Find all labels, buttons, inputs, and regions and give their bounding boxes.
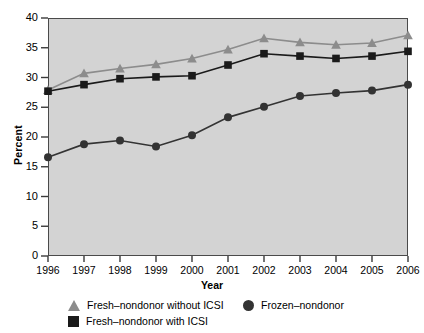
- legend-triangle-icon: [68, 300, 80, 311]
- data-point-marker: [116, 137, 124, 145]
- data-point-marker: [260, 103, 268, 111]
- data-point-marker: [332, 89, 340, 97]
- data-point-marker: [332, 55, 340, 63]
- legend-label: Fresh–nondonor without ICSI: [87, 299, 224, 311]
- data-point-marker: [152, 143, 160, 151]
- data-series-group: [43, 30, 413, 161]
- data-point-marker: [44, 87, 52, 95]
- data-point-marker: [403, 30, 413, 39]
- data-point-marker: [44, 153, 52, 161]
- data-point-marker: [188, 72, 196, 80]
- legend-item[interactable]: Fresh–nondonor without ICSI: [68, 299, 224, 311]
- data-point-marker: [152, 73, 160, 81]
- data-point-marker: [224, 61, 232, 69]
- chart-legend: Fresh–nondonor without ICSIFresh–nondono…: [0, 297, 424, 331]
- data-point-marker: [116, 75, 124, 83]
- data-point-marker: [259, 33, 269, 42]
- legend-item[interactable]: Frozen–nondonor: [243, 299, 344, 311]
- data-point-marker: [368, 87, 376, 95]
- data-point-marker: [296, 52, 304, 60]
- legend-item[interactable]: Fresh–nondonor with ICSI: [68, 315, 208, 327]
- data-point-marker: [188, 131, 196, 139]
- data-point-marker: [296, 92, 304, 100]
- data-point-marker: [80, 140, 88, 148]
- chart-plot-svg: [0, 0, 424, 333]
- data-point-marker: [368, 52, 376, 60]
- data-point-marker: [404, 48, 412, 56]
- legend-label: Fresh–nondonor with ICSI: [86, 315, 208, 327]
- axis-ticks: [41, 18, 408, 262]
- data-point-marker: [224, 113, 232, 121]
- chart-container: Percent 0510152025303540 199619971998199…: [0, 0, 424, 333]
- legend-circle-icon: [243, 300, 254, 311]
- legend-square-icon: [68, 316, 79, 327]
- data-point-marker: [80, 81, 88, 89]
- legend-label: Frozen–nondonor: [261, 299, 344, 311]
- data-point-marker: [260, 50, 268, 58]
- data-point-marker: [404, 81, 412, 89]
